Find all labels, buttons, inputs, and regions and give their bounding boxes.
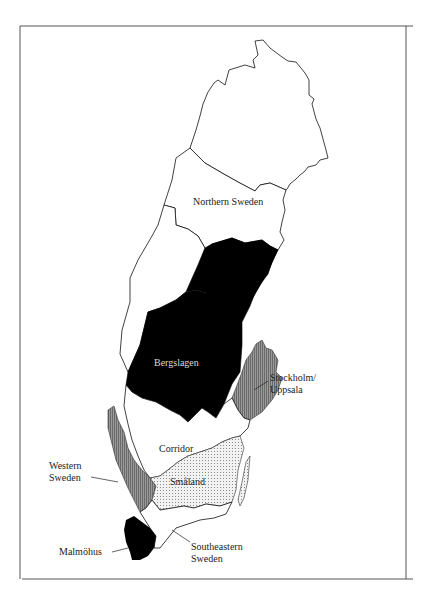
label-northern-sweden: Northern Sweden (193, 196, 263, 207)
leader-western (91, 477, 118, 482)
label-western-line1: Western (49, 460, 82, 471)
label-smaland: Småland (170, 476, 205, 487)
label-western-line2: Sweden (49, 472, 81, 483)
leader-malmohus (112, 548, 128, 552)
label-corridor: Corridor (159, 443, 194, 454)
label-malmohus: Malmöhus (59, 546, 102, 557)
sweden-regions-map: Northern Sweden Bergslagen Stockholm/ Up… (0, 0, 431, 598)
label-stockholm-line2: Uppsala (270, 384, 303, 395)
label-stockholm-line1: Stockholm/ (270, 372, 316, 383)
leader-southeastern (172, 530, 190, 542)
label-bergslagen: Bergslagen (154, 357, 199, 368)
label-southeastern-line1: Southeastern (191, 541, 243, 552)
label-southeastern-line2: Sweden (191, 553, 223, 564)
